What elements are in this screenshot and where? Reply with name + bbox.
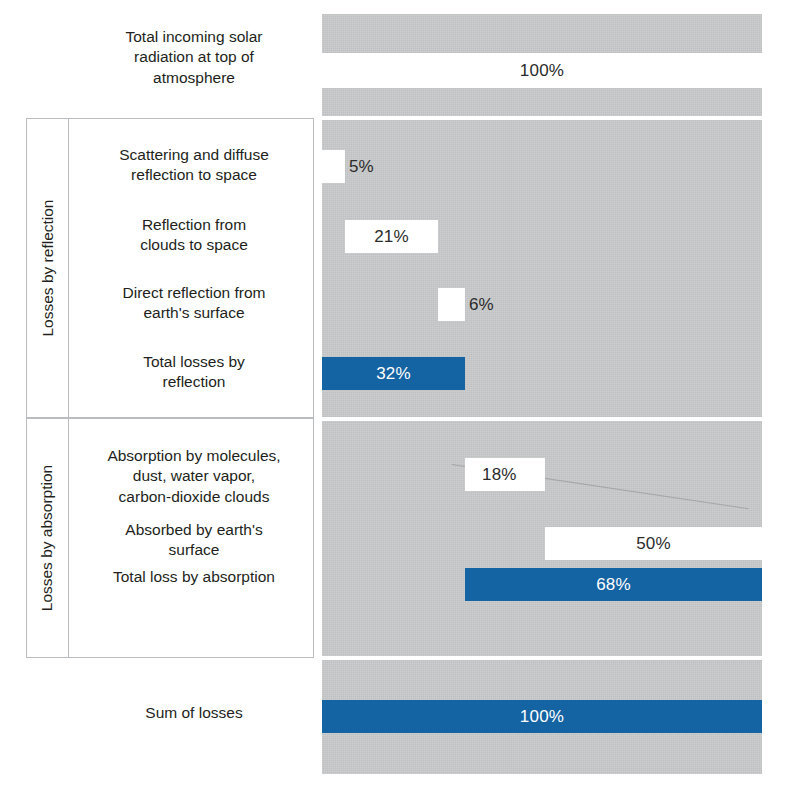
row-label-scattering: Scattering and diffuse reflection to spa…	[74, 145, 314, 186]
band-separator-middle	[322, 417, 762, 421]
bar-sum-of-losses: 100%	[322, 700, 762, 733]
bar-absorbed-surface: 50%	[545, 527, 762, 560]
row-label-sum-of-losses: Sum of losses	[74, 703, 314, 723]
bar-scattering-value: 5%	[349, 150, 374, 183]
row-label-clouds: Reflection from clouds to space	[74, 215, 314, 256]
bar-clouds: 21%	[345, 220, 438, 253]
band-separator-bottom	[322, 656, 762, 660]
row-label-absorption-molecules: Absorption by molecules, dust, water vap…	[74, 446, 314, 507]
bar-total-absorption: 68%	[465, 568, 762, 601]
group-label-absorption-wrap: Losses by absorption	[27, 419, 68, 657]
group-label-reflection-wrap: Losses by reflection	[27, 119, 68, 417]
bar-scattering	[322, 150, 345, 183]
row-label-total-absorption: Total loss by absorption	[74, 567, 314, 587]
row-label-total-incoming: Total incoming solar radiation at top of…	[74, 27, 314, 88]
bar-total-incoming: 100%	[322, 53, 762, 88]
bar-absorption-molecules: 18%	[465, 458, 545, 491]
bar-total-reflection: 32%	[322, 357, 465, 390]
row-label-total-reflection: Total losses by reflection	[74, 352, 314, 393]
group-label-reflection: Losses by reflection	[39, 200, 57, 337]
plot-panel	[322, 14, 762, 774]
chart-figure: Total incoming solar radiation at top of…	[0, 0, 786, 789]
row-label-absorbed-surface: Absorbed by earth's surface	[74, 520, 314, 561]
group-divider-absorption	[68, 419, 69, 657]
band-separator-top	[322, 116, 762, 120]
row-label-direct: Direct reflection from earth's surface	[74, 283, 314, 324]
bar-direct	[438, 288, 465, 321]
group-label-absorption: Losses by absorption	[39, 465, 57, 611]
group-divider-reflection	[68, 119, 69, 417]
bar-direct-value: 6%	[469, 288, 494, 321]
